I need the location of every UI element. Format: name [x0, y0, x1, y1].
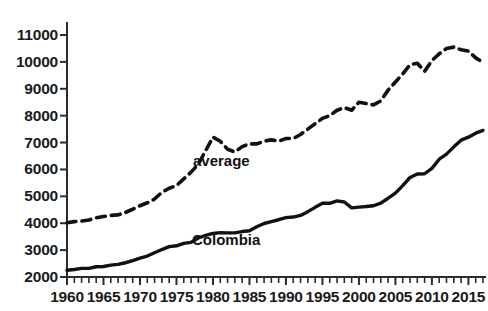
- x-tick-label: 2015: [446, 288, 488, 306]
- y-tick-label: 6000: [0, 160, 58, 178]
- y-tick-label: 2000: [0, 268, 58, 286]
- y-tick-label: 3000: [0, 241, 58, 259]
- series-annotation-colombia: Colombia: [192, 231, 260, 248]
- y-tick-label: 8000: [0, 107, 58, 125]
- chart-container: 2000300040005000600070008000900010000110…: [0, 0, 488, 311]
- y-tick-label: 11000: [0, 26, 58, 44]
- y-tick-label: 4000: [0, 214, 58, 232]
- y-tick-marks: [60, 35, 67, 277]
- series-line-average: [67, 47, 483, 223]
- y-tick-label: 5000: [0, 187, 58, 205]
- y-tick-label: 9000: [0, 80, 58, 98]
- y-tick-label: 7000: [0, 134, 58, 152]
- y-tick-label: 10000: [0, 53, 58, 71]
- series-line-colombia: [67, 130, 483, 270]
- x-tick-marks: [67, 277, 483, 285]
- series-annotation-average: average: [193, 152, 250, 169]
